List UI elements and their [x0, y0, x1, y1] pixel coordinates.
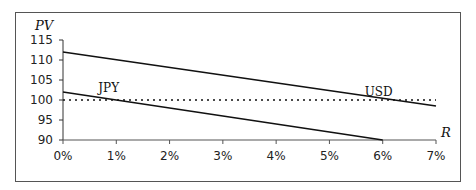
x-axis-label: R [440, 125, 451, 140]
y-tick-label: 95 [38, 113, 53, 127]
x-tick-label: 3% [213, 149, 232, 163]
y-tick-label: 105 [30, 73, 53, 87]
y-tick-label: 100 [30, 93, 53, 107]
x-tick-label: 6% [373, 149, 392, 163]
y-tick-label: 115 [30, 33, 53, 47]
labels: PVRJPYUSD [34, 18, 451, 140]
x-tick-label: 0% [53, 149, 72, 163]
x-tick-label: 5% [320, 149, 339, 163]
x-tick-label: 4% [267, 149, 286, 163]
series-label-usd: USD [365, 85, 393, 99]
x-tick-label: 7% [426, 149, 445, 163]
y-tick-label: 90 [38, 133, 53, 147]
x-tick-label: 1% [107, 149, 126, 163]
y-axis-label: PV [34, 18, 55, 33]
x-tick-label: 2% [160, 149, 179, 163]
line-chart: 90951001051101150%1%2%3%4%5%6%7% PVRJPYU… [0, 0, 476, 190]
y-tick-label: 110 [30, 53, 53, 67]
series-label-jpy: JPY [96, 81, 120, 95]
